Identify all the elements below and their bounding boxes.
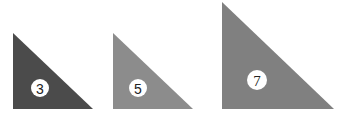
triangles-diagram: 3 5 7 [0, 0, 345, 120]
triangle-7: 7 [222, 2, 334, 109]
triangle-shape [13, 33, 93, 109]
triangle-5: 5 [113, 33, 193, 109]
triangle-label: 5 [134, 81, 142, 97]
triangle-label: 7 [253, 73, 261, 89]
triangle-shape [222, 2, 334, 109]
triangle-shape [113, 33, 193, 109]
triangle-label: 3 [36, 81, 44, 97]
triangle-3: 3 [13, 33, 93, 109]
